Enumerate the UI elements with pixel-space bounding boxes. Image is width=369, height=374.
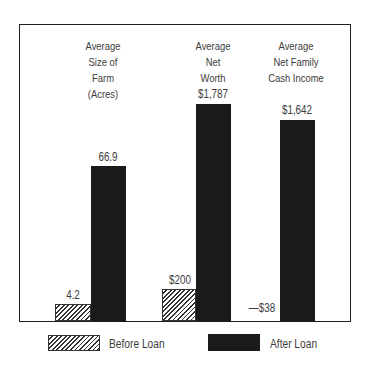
legend-swatch-before-loan <box>48 335 100 351</box>
bar-net-worth-before-loan <box>162 289 196 321</box>
value-label-cash-income-after: $1,642 <box>277 103 318 117</box>
legend-label-before-loan: Before Loan <box>109 337 165 351</box>
legend-swatch-after-loan <box>208 334 260 351</box>
legend-label-after-loan: After Loan <box>270 337 317 351</box>
value-label-farm-size-after: 66.9 <box>92 150 125 164</box>
value-label-cash-income-before: —$38 <box>247 301 277 315</box>
bar-net-worth-after-loan <box>196 104 231 321</box>
value-label-net-worth-after: $1,787 <box>193 87 234 101</box>
bar-farm-size-after-loan <box>91 166 126 321</box>
category-label-farm-size: Average Size of Farm (Acres) <box>74 38 131 102</box>
category-label-cash-income: Average Net Family Cash Income <box>263 38 329 86</box>
bar-cash-income-after-loan <box>280 120 315 321</box>
value-label-net-worth-before: $200 <box>162 273 198 287</box>
category-label-net-worth: Average Net Worth <box>184 38 241 86</box>
value-label-farm-size-before: 4.2 <box>57 288 90 302</box>
bar-farm-size-before-loan <box>55 304 91 321</box>
